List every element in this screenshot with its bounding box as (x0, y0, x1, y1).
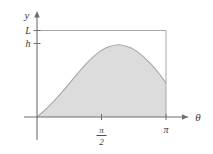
x-axis-arrowhead-icon (182, 114, 188, 120)
shaded-area-region (37, 45, 166, 117)
fraction-denominator-2: 2 (99, 137, 104, 147)
x-tick-label-pi-over-2: π 2 (97, 125, 107, 147)
y-axis-label: y (24, 9, 30, 21)
y-axis-arrowhead-icon (34, 11, 40, 18)
fraction-numerator-pi: π (99, 125, 104, 135)
figure-canvas: y θ L h π 2 π (0, 0, 213, 154)
y-tick-label-h: h (26, 38, 31, 49)
x-tick-label-pi: π (163, 124, 169, 135)
math-figure: y θ L h π 2 π (0, 0, 213, 154)
y-tick-label-L: L (24, 25, 31, 36)
x-axis-label: θ (195, 111, 201, 123)
